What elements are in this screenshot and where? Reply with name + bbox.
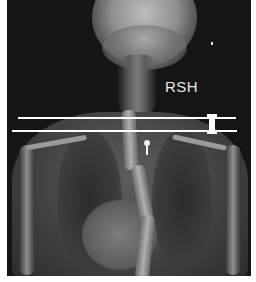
height-difference-marker-icon (203, 114, 221, 134)
cervical-spine (117, 55, 157, 115)
rsh-label: RSH (165, 78, 198, 95)
radiograph (7, 0, 251, 276)
right-humerus (19, 145, 35, 275)
marker-dot (211, 42, 213, 45)
left-lung (152, 130, 212, 270)
left-humerus (225, 145, 241, 275)
